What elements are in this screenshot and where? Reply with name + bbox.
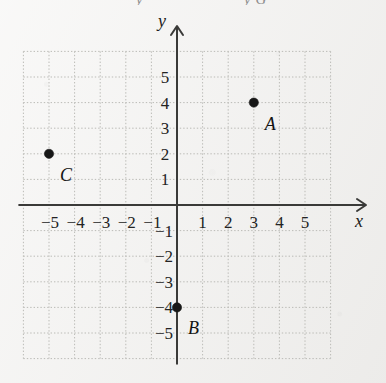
data-point-label: A (265, 115, 276, 133)
y-tick-label: 3 (145, 120, 185, 137)
y-tick-label: −2 (144, 248, 184, 265)
x-tick-label: 5 (285, 214, 325, 231)
y-tick-label: −3 (144, 274, 184, 291)
data-point-label: C (60, 166, 72, 184)
data-point-dot (249, 98, 258, 107)
x-axis-name-label: x (355, 212, 363, 230)
y-tick-label: −4 (144, 299, 184, 316)
y-tick-label: 4 (145, 95, 185, 112)
y-tick-label: −5 (144, 325, 184, 342)
y-tick-label: 5 (145, 69, 185, 86)
y-tick-label: −1 (144, 223, 184, 240)
y-tick-label: 1 (145, 171, 185, 188)
axis-layer (18, 26, 366, 365)
y-tick-label: 2 (145, 146, 185, 163)
data-point-label: B (188, 319, 199, 337)
coordinate-plane-figure: y y G yx−5−4−3−2−11234554321−1−2−3−4−5AB… (0, 0, 386, 383)
data-point-dot (44, 149, 53, 158)
y-axis-name-label: y (158, 12, 166, 30)
